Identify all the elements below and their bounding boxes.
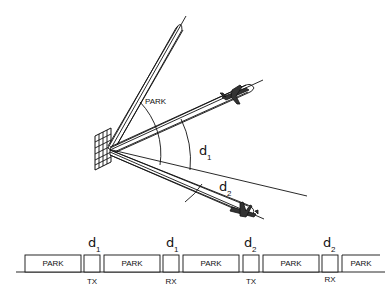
slot-below-label: TX: [87, 277, 98, 286]
slot-below-label: RX: [165, 277, 177, 286]
slot-label: PARK: [121, 259, 143, 268]
slot-below-label: RX: [324, 275, 336, 284]
timeline-slot-rx: [163, 255, 179, 272]
radar-beam-diagram: PARK d 1 d 2 PARK TX d 1 PARK RX d 1 PAR…: [0, 0, 387, 299]
angle-d1-subscript: 1: [207, 153, 212, 162]
slot-above-subscript: 2: [331, 245, 336, 254]
d1-angle-arc: [181, 119, 190, 170]
slot-above-subscript: 1: [174, 245, 179, 254]
timeline-slot-tx: [84, 255, 100, 272]
slot-label: PARK: [280, 259, 302, 268]
slot-above-subscript: 2: [252, 245, 257, 254]
slot-label: PARK: [350, 259, 372, 268]
slot-below-label: TX: [246, 277, 257, 286]
slot-label: PARK: [42, 259, 64, 268]
slot-label: PARK: [200, 259, 222, 268]
timeline-slot-rx: [322, 255, 338, 272]
timeline-slot-tx: [243, 255, 259, 272]
slot-above-subscript: 1: [96, 245, 101, 254]
timeline: PARK TX d 1 PARK RX d 1 PARK TX d 2 PARK…: [16, 235, 385, 286]
angle-d2-subscript: 2: [227, 189, 232, 198]
park-beam-label: PARK: [145, 97, 167, 106]
